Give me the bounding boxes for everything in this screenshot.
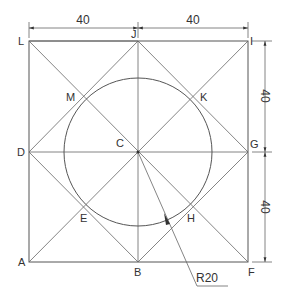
dim-top-left: 40	[76, 13, 90, 27]
center-point	[137, 151, 140, 154]
dim-radius: R20	[196, 271, 218, 285]
label-D: D	[17, 146, 25, 158]
dim-right-lower: 40	[258, 200, 272, 214]
label-C: C	[116, 137, 124, 149]
label-L: L	[18, 35, 24, 47]
label-I: I	[250, 35, 253, 47]
label-K: K	[200, 91, 208, 103]
label-A: A	[18, 256, 26, 268]
label-H: H	[187, 212, 195, 224]
dim-top-right: 40	[186, 13, 200, 27]
label-M: M	[66, 91, 75, 103]
label-G: G	[250, 138, 259, 150]
label-B: B	[134, 266, 141, 278]
geometry-diagram: 40 40 40 40 R20 L J I M K D C G E H A B …	[0, 0, 282, 303]
dim-right-upper: 40	[258, 89, 272, 103]
label-E: E	[80, 212, 87, 224]
label-J: J	[131, 28, 137, 40]
label-F: F	[248, 266, 255, 278]
